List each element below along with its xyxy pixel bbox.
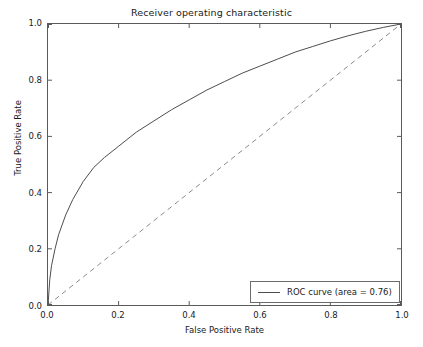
x-tick-label-0-0: 0.0 xyxy=(27,310,67,320)
y-tick-label-0-2: 0.2 xyxy=(0,244,42,254)
plot-svg xyxy=(48,24,401,305)
y-axis-label: True Positive Rate xyxy=(13,78,23,198)
roc-chart-figure: Receiver operating characteristic 0.00.2… xyxy=(0,0,423,347)
x-tick-label-0-6: 0.6 xyxy=(240,310,280,320)
x-tick-label-1-0: 1.0 xyxy=(382,310,422,320)
x-tick-label-0-8: 0.8 xyxy=(311,310,351,320)
x-tick-label-0-4: 0.4 xyxy=(169,310,209,320)
x-tick-label-0-2: 0.2 xyxy=(98,310,138,320)
legend-label-roc-curve: ROC curve (area = 0.76) xyxy=(287,287,392,297)
legend-line-swatch xyxy=(258,292,280,293)
x-axis-label: False Positive Rate xyxy=(47,325,402,335)
legend: ROC curve (area = 0.76) xyxy=(250,281,400,303)
chart-title: Receiver operating characteristic xyxy=(0,7,423,18)
chance-diagonal-line xyxy=(48,24,401,305)
plot-area xyxy=(47,23,402,306)
y-tick-label-1-0: 1.0 xyxy=(0,18,42,28)
